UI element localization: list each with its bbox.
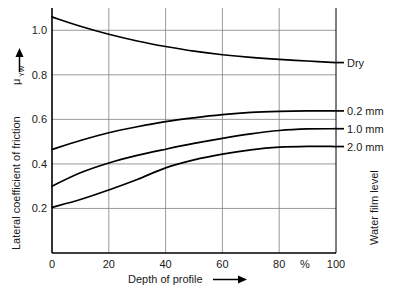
x-axis-unit-label: % xyxy=(300,258,310,270)
legend-label-0-2-mm: 0.2 mm xyxy=(347,105,384,117)
right-axis-title: Water film level xyxy=(368,170,380,245)
y-tick-label-1.0: 1.0 xyxy=(32,24,47,36)
x-tick-label-20: 20 xyxy=(103,258,115,270)
x-tick-label-60: 60 xyxy=(216,258,228,270)
chart-background xyxy=(0,0,396,296)
y-tick-label-0.6: 0.6 xyxy=(32,113,47,125)
x-tick-label-80: 80 xyxy=(273,258,285,270)
x-tick-label-0: 0 xyxy=(49,258,55,270)
x-tick-label-100: 100 xyxy=(327,258,345,270)
legend-label-2-0-mm: 2.0 mm xyxy=(347,141,384,153)
x-tick-label-40: 40 xyxy=(159,258,171,270)
y-axis-symbol: μ xyxy=(10,79,22,85)
legend-label-1-0-mm: 1.0 mm xyxy=(347,123,384,135)
friction-vs-profile-depth-chart: 020406080100 0.20.40.60.81.0 % Depth of … xyxy=(0,0,396,296)
y-tick-label-0.8: 0.8 xyxy=(32,69,47,81)
y-axis-title: Lateral coefficient of friction xyxy=(10,116,22,250)
legend-label-dry: Dry xyxy=(347,57,365,69)
y-tick-label-0.2: 0.2 xyxy=(32,202,47,214)
x-axis-title: Depth of profile xyxy=(128,273,203,285)
y-tick-label-0.4: 0.4 xyxy=(32,158,47,170)
